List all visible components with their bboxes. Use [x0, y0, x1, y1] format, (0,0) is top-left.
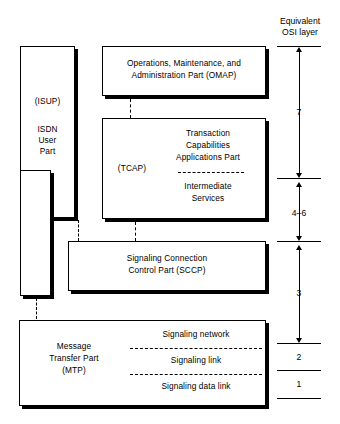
isup-line1: ISDN [20, 124, 75, 136]
omap-line1: Operations, Maintenance, and [102, 58, 266, 70]
osi-label-7: 7 [284, 107, 314, 117]
isup-seam-cover [22, 172, 49, 216]
tcap-abbrev: (TCAP) [104, 163, 160, 175]
osi-label-3: 3 [284, 288, 314, 298]
isup-line2: User [20, 135, 75, 147]
osi-label-2: 2 [284, 352, 314, 362]
tcap-line1: Transaction [152, 128, 264, 140]
isup-line3: Part [20, 146, 75, 158]
osi-tick-bottom [277, 398, 321, 399]
mtp-divider-1 [130, 348, 262, 349]
osi-tick-2-1 [277, 370, 321, 371]
sccp-line1: Signaling Connection [68, 253, 266, 265]
tcap-line2: Capabilities [152, 140, 264, 152]
omap-line2: Administration Part (OMAP) [102, 70, 266, 82]
tcap-line3: Applications Part [152, 152, 264, 164]
connector-tcap-sccp [135, 222, 136, 241]
osi-arrow-3-up [296, 245, 302, 250]
osi-arrow-46-up [296, 182, 302, 187]
sccp-line2: Control Part (SCCP) [68, 265, 266, 277]
isup-abbrev: (ISUP) [20, 96, 75, 108]
tcap-line5: Services [152, 193, 264, 205]
mtp-sub3: Signaling data link [130, 381, 262, 393]
osi-header: Equivalent OSI layer [262, 16, 338, 37]
diagram-canvas: Equivalent OSI layer (ISUP) ISDN User Pa… [0, 0, 340, 424]
mtp-line2: Transfer Part [22, 353, 126, 365]
mtp-sub1: Signaling network [130, 329, 262, 341]
osi-header-line1: Equivalent [262, 16, 338, 27]
mtp-line3: (MTP) [22, 365, 126, 377]
connector-isup-mtp [36, 298, 37, 319]
tcap-divider [178, 172, 244, 173]
osi-arrow-7-up [296, 47, 302, 52]
osi-label-1: 1 [284, 379, 314, 389]
osi-arrow-7-down [296, 173, 302, 178]
connector-isup-sccp [78, 220, 79, 241]
osi-header-line2: OSI layer [262, 27, 338, 38]
tcap-line4: Intermediate [152, 181, 264, 193]
osi-tick-46-3 [277, 241, 321, 242]
connector-omap-tcap [130, 99, 131, 118]
osi-arrow-46-down [296, 236, 302, 241]
mtp-line1: Message [22, 341, 126, 353]
mtp-sub2: Signaling link [130, 355, 262, 367]
osi-tick-7-46 [277, 178, 321, 179]
osi-tick-3-2 [277, 343, 321, 344]
osi-arrow-3-down [296, 338, 302, 343]
mtp-divider-2 [130, 374, 262, 375]
osi-label-46: 4–6 [284, 208, 314, 218]
